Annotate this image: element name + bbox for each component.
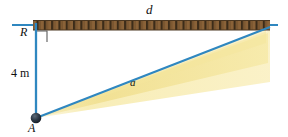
label-span-d: d <box>146 3 153 16</box>
label-slant-a: a <box>130 77 136 88</box>
diagram-canvas <box>0 0 288 137</box>
label-height-4m: 4 m <box>11 67 29 79</box>
ceiling-hatch <box>33 21 270 31</box>
right-angle-marker <box>36 31 47 42</box>
label-reference-r: R <box>20 26 27 38</box>
figure-container: d a R A 4 m <box>0 0 288 137</box>
label-point-a: A <box>28 122 35 134</box>
ceiling-surface <box>33 21 270 31</box>
